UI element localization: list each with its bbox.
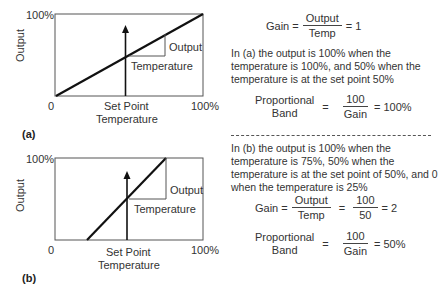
gain-a-lhs: Gain = <box>266 20 299 32</box>
chart-a-response-line <box>56 14 203 96</box>
gain-b-rhs: = 2 <box>382 202 398 214</box>
pb-a-denominator: Gain <box>341 107 370 120</box>
gain-equation-a: Gain = Output Temp = 1 <box>266 12 361 39</box>
pb-a-lhs: Proportional Band <box>255 94 314 120</box>
pb-a-fraction: 100 Gain <box>341 93 370 120</box>
description-b-line: In (b) the output is 100% when the <box>231 142 438 155</box>
gain-b-numerator-2: 100 <box>353 194 377 208</box>
chart-a-x-min-label: 0 <box>48 100 54 112</box>
chart-b-arrowhead-icon <box>124 171 131 179</box>
chart-a-y-axis-label: Output <box>14 29 26 62</box>
chart-b-x-max-label: 100% <box>191 244 219 256</box>
pb-b-lhs-line2: Band <box>272 244 298 257</box>
chart-b-x-label-line1: Set Point <box>106 246 151 258</box>
pb-b-fraction: 100 Gain <box>341 230 370 257</box>
chart-a-x-label-line1: Set Point <box>104 100 149 112</box>
gain-a-denominator: Temp <box>306 26 339 39</box>
pb-b-rhs: = 50% <box>374 238 406 250</box>
chart-b-y-top-label: 100% <box>26 153 54 165</box>
description-a-line: temperature is 100%, and 50% when the <box>231 60 421 73</box>
description-b-line: temperature is 75%, 50% when the <box>231 155 438 168</box>
gain-b-lhs: Gain = <box>255 202 288 214</box>
pb-a-lhs-line1: Proportional <box>255 94 314 107</box>
gain-a-fraction: Output Temp <box>303 12 342 39</box>
chart-a-x-max-label: 100% <box>191 100 219 112</box>
chart-b-y-axis-label: Output <box>14 179 26 212</box>
chart-a-run-label: Temperature <box>131 60 193 72</box>
chart-a-rise-label: Output <box>169 41 202 53</box>
description-a: In (a) the output is 100% when the tempe… <box>231 47 421 86</box>
chart-a-y-top-label: 100% <box>26 9 54 21</box>
gain-b-denominator-2: 50 <box>356 208 374 221</box>
chart-a-sublabel: (a) <box>22 128 35 140</box>
chart-b-x-label-line2: Temperature <box>98 259 160 271</box>
proportional-band-equation-b: Proportional Band = 100 Gain = 50% <box>255 230 406 257</box>
pb-a-equals: = <box>322 101 328 113</box>
gain-a-rhs: = 1 <box>346 20 362 32</box>
chart-b-rise-label: Output <box>170 184 203 196</box>
description-b: In (b) the output is 100% when the tempe… <box>231 142 438 194</box>
chart-b-sublabel: (b) <box>22 272 36 284</box>
gain-b-denominator: Temp <box>295 208 328 221</box>
pb-a-rhs: = 100% <box>374 101 412 113</box>
section-divider <box>231 135 431 136</box>
description-a-line: In (a) the output is 100% when the <box>231 47 421 60</box>
gain-b-fraction: Output Temp <box>292 194 331 221</box>
gain-equation-b: Gain = Output Temp = 100 50 = 2 <box>255 194 397 221</box>
gain-b-equals: = <box>339 202 345 214</box>
pb-a-lhs-line2: Band <box>272 107 298 120</box>
proportional-band-equation-a: Proportional Band = 100 Gain = 100% <box>255 93 412 120</box>
chart-a-x-label-line2: Temperature <box>96 113 158 125</box>
gain-b-numerator: Output <box>292 194 331 208</box>
chart-b-x-min-label: 0 <box>48 244 54 256</box>
pb-b-lhs-line1: Proportional <box>255 231 314 244</box>
pb-b-denominator: Gain <box>341 244 370 257</box>
chart-a-arrowhead-icon <box>122 25 129 33</box>
description-a-line: temperature is at the set point 50% <box>231 73 421 86</box>
gain-a-numerator: Output <box>303 12 342 26</box>
description-b-line: when the temperature is 25% <box>231 181 438 194</box>
description-b-line: temperature is at the set point of 50%, … <box>231 168 438 181</box>
pb-a-numerator: 100 <box>343 93 367 107</box>
chart-b-run-label: Temperature <box>134 203 196 215</box>
pb-b-equals: = <box>322 238 328 250</box>
gain-b-fraction-2: 100 50 <box>353 194 377 221</box>
pb-b-lhs: Proportional Band <box>255 231 314 257</box>
pb-b-numerator: 100 <box>343 230 367 244</box>
